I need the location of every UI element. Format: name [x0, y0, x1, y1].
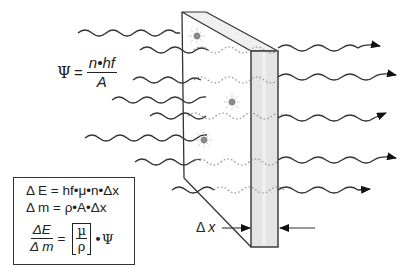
psi-equation: Ψ = n•hf A	[57, 55, 117, 90]
mu-rho-bracket: μ ρ	[72, 223, 90, 255]
bracket-top: μ	[76, 223, 86, 239]
mass-lhs: Δ m	[26, 200, 49, 215]
psi-symbol: Ψ	[57, 63, 71, 82]
ratio-numerator: ΔE	[31, 222, 53, 239]
energy-lhs: Δ E	[26, 183, 47, 198]
thickness-var: x	[208, 219, 215, 235]
psi-numerator: n•hf	[87, 55, 117, 73]
bracket-corner-tl	[72, 223, 76, 224]
transmitted-wave-3	[278, 113, 386, 121]
psi-fraction: n•hf A	[87, 55, 117, 90]
bracket-bottom: ρ	[78, 239, 86, 255]
transmitted-wave-2	[278, 74, 396, 80]
bracket-corner-tr	[87, 223, 91, 224]
ratio-fraction: ΔE Δ m	[30, 222, 54, 255]
psi-equals: =	[74, 64, 83, 81]
ratio-tail: •Ψ	[94, 231, 114, 247]
transmitted-waves	[278, 45, 396, 193]
ratio-equation: ΔE Δ m = μ ρ •Ψ	[26, 222, 114, 255]
thickness-delta: Δ	[196, 219, 205, 235]
incoming-wave-1	[78, 30, 180, 36]
energy-rhs: = hf•μ•n•Δx	[51, 183, 119, 198]
transmitted-wave-5	[278, 187, 370, 193]
transmitted-wave-4	[278, 157, 396, 163]
mass-rhs: = ρ•A•Δx	[53, 200, 107, 215]
transmitted-wave-1	[278, 45, 380, 51]
thickness-label: Δx	[196, 219, 215, 235]
psi-denominator: A	[97, 73, 107, 90]
equation-box: Δ E = hf•μ•n•Δx Δ m = ρ•A•Δx ΔE Δ m = μ …	[13, 177, 135, 265]
bracket-corner-br	[87, 254, 91, 255]
ratio-denominator: Δ m	[30, 239, 54, 255]
ratio-equals: =	[58, 231, 66, 246]
slab	[182, 12, 278, 247]
energy-equation: Δ E = hf•μ•n•Δx	[26, 183, 119, 198]
mass-equation: Δ m = ρ•A•Δx	[26, 200, 107, 215]
bracket-corner-bl	[72, 254, 76, 255]
